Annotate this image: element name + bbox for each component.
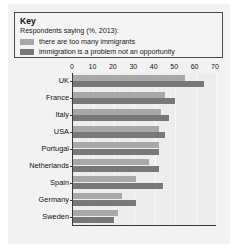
bar (73, 159, 149, 165)
legend-title: Key (20, 16, 218, 26)
x-tick-label: 50 (170, 62, 178, 71)
bar (73, 142, 159, 148)
x-tick-label: 20 (109, 62, 117, 71)
chart-figure: Key Respondents saying (%, 2013): there … (0, 0, 238, 248)
bar-group: Spain (73, 174, 216, 191)
bar (73, 149, 159, 155)
bar (73, 176, 136, 182)
x-tick-label: 30 (129, 62, 137, 71)
x-tick-label: 40 (150, 62, 158, 71)
bar-group: Portugal (73, 141, 216, 158)
plot-area: UKFranceItalyUSAPortugalNetherlandsSpain… (72, 73, 216, 225)
bar (73, 217, 114, 223)
legend-swatch-icon (20, 49, 34, 55)
category-label: France (46, 94, 69, 102)
legend-entry-1: there are too many immigrants (20, 37, 218, 46)
legend-entry-2: immigration is a problem not an opportun… (20, 47, 218, 56)
bar (73, 98, 175, 104)
legend-entry-1-label: there are too many immigrants (39, 38, 135, 46)
bar (73, 200, 136, 206)
category-label: Germany (39, 196, 69, 204)
bar-group: France (73, 90, 216, 107)
bar-group: Netherlands (73, 157, 216, 174)
bar (73, 193, 122, 199)
bar (73, 132, 165, 138)
category-label: Netherlands (29, 162, 69, 170)
category-label: USA (54, 128, 69, 136)
legend-box: Key Respondents saying (%, 2013): there … (14, 12, 223, 58)
x-axis-tick-labels: 010203040506070 (14, 62, 223, 73)
bar (73, 92, 165, 98)
bar-group: Italy (73, 107, 216, 124)
category-label: Sweden (42, 213, 69, 221)
category-label: UK (59, 77, 69, 85)
bar-group: USA (73, 124, 216, 141)
bar (73, 109, 161, 115)
x-axis-line (72, 225, 216, 226)
bar-group: Germany (73, 191, 216, 208)
bar-group: UK (73, 73, 216, 90)
legend-swatch-icon (20, 39, 34, 45)
x-tick-label: 10 (89, 62, 97, 71)
x-tick-label: 70 (211, 62, 219, 71)
bar (73, 166, 159, 172)
bar (73, 81, 204, 87)
category-label: Spain (50, 179, 69, 187)
bar (73, 75, 185, 81)
bar-group: Sweden (73, 208, 216, 225)
bar (73, 126, 159, 132)
gridline (216, 73, 217, 225)
bar-chart: 010203040506070 UKFranceItalyUSAPortugal… (14, 62, 223, 238)
legend-entry-2-label: immigration is a problem not an opportun… (39, 48, 175, 56)
bar (73, 210, 118, 216)
x-tick-label: 0 (70, 62, 74, 71)
bar (73, 115, 169, 121)
legend-subtitle: Respondents saying (%, 2013): (20, 26, 218, 36)
category-label: Portugal (41, 145, 69, 153)
category-label: Italy (55, 111, 69, 119)
bar (73, 183, 163, 189)
x-tick-label: 60 (191, 62, 199, 71)
